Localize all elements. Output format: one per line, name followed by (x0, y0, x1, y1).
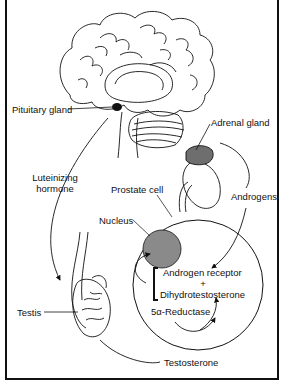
label-androgens: Androgens (231, 191, 277, 202)
label-plus: + (163, 278, 243, 289)
label-luteinizing-hormone-2: hormone (25, 183, 85, 194)
label-androgen-receptor: Androgen receptor (163, 267, 242, 278)
label-pituitary-gland: Pituitary gland (12, 104, 72, 115)
pituitary-gland-shape (112, 103, 122, 111)
label-adrenal-gland: Adrenal gland (211, 117, 270, 128)
label-luteinizing-hormone-1: Luteinizing (25, 172, 85, 183)
testis-illustration (72, 232, 111, 337)
brain-illustration (60, 11, 214, 158)
kidney-illustration (179, 146, 220, 212)
label-testosterone: Testosterone (164, 357, 218, 368)
label-5a-reductase: 5α-Reductase (151, 306, 210, 317)
nucleus-shape (143, 230, 181, 268)
label-testis: Testis (17, 307, 41, 318)
label-dihydrotestosterone: Dihydrotestosterone (160, 289, 245, 300)
label-nucleus: Nucleus (99, 215, 133, 226)
label-prostate-cell: Prostate cell (111, 184, 163, 195)
